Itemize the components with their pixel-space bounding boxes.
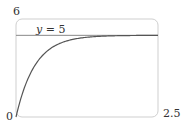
y-max-label: 6 bbox=[13, 6, 20, 17]
curve-line bbox=[16, 35, 158, 117]
x-max-label: 2.5 bbox=[163, 108, 181, 119]
chart-plot bbox=[0, 0, 188, 122]
asymptote-label: y = 5 bbox=[36, 24, 65, 35]
asymptote-value: = 5 bbox=[42, 23, 65, 36]
x-min-label: 0 bbox=[6, 111, 13, 122]
